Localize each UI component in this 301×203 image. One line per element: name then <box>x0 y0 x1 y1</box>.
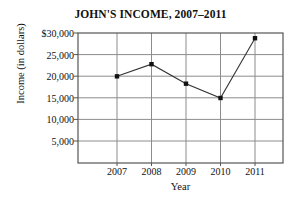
plot-area <box>0 0 301 203</box>
data-point-2008 <box>149 62 153 66</box>
income-line-chart: JOHN'S INCOME, 2007–2011 Income (in doll… <box>0 0 301 203</box>
data-point-2009 <box>184 82 188 86</box>
data-point-2007 <box>115 74 119 78</box>
data-point-2011 <box>253 36 257 40</box>
data-point-2010 <box>218 96 222 100</box>
